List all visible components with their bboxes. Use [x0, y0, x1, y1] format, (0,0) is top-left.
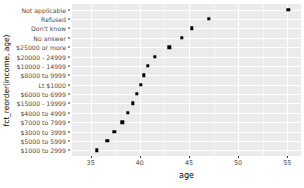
y-axis-title-text: fct_reorder(income, age): [3, 34, 12, 126]
data-point: [287, 8, 290, 11]
y-axis-title: fct_reorder(income, age): [0, 0, 14, 160]
data-point: [106, 139, 109, 142]
y-axis-tick-mark: [68, 47, 70, 48]
y-axis-tick-mark: [68, 103, 70, 104]
y-axis-tick-mark: [68, 28, 70, 29]
y-axis-tick-mark: [68, 84, 70, 85]
y-axis-tick-label: Refused: [41, 16, 66, 23]
y-axis-tick-label: $10000 - 14999: [17, 62, 66, 69]
x-axis-tick-label: 35: [87, 159, 95, 167]
gridline-major-vertical: [91, 4, 92, 156]
gridline-minor-vertical: [115, 4, 116, 156]
x-axis-title: age: [72, 171, 301, 180]
gridline-major-horizontal: [72, 103, 301, 104]
gridline-major-horizontal: [72, 85, 301, 86]
data-point: [146, 64, 149, 67]
gridline-minor-vertical: [263, 4, 264, 156]
gridline-major-horizontal: [72, 150, 301, 151]
gridline-minor-vertical: [214, 4, 215, 156]
gridline-major-horizontal: [72, 19, 301, 20]
y-axis-tick-label: $20000 - 24999: [17, 53, 66, 60]
data-point: [207, 17, 210, 20]
data-point: [135, 92, 138, 95]
y-axis-tick-mark: [68, 65, 70, 66]
gridline-major-vertical: [287, 4, 288, 156]
y-axis-tick-label: $8000 to 9999: [20, 72, 66, 79]
y-axis-tick-mark: [68, 37, 70, 38]
gridline-major-horizontal: [72, 94, 301, 95]
y-axis-tick-label: $4000 to 4999: [20, 109, 66, 116]
y-axis-tick-mark: [68, 9, 70, 10]
data-point: [180, 36, 183, 39]
x-axis-tick-label: 40: [136, 159, 144, 167]
gridline-major-horizontal: [72, 38, 301, 39]
gridline-major-horizontal: [72, 57, 301, 58]
gridline-major-horizontal: [72, 132, 301, 133]
x-axis-tick-label: 45: [185, 159, 193, 167]
gridline-major-horizontal: [72, 75, 301, 76]
gridline-major-horizontal: [72, 47, 301, 48]
gridline-major-horizontal: [72, 113, 301, 114]
data-point: [142, 74, 145, 77]
data-point: [113, 130, 116, 133]
y-axis-tick-mark: [68, 122, 70, 123]
y-axis-tick-mark: [68, 56, 70, 57]
scatter-plot: fct_reorder(income, age) Not applicableR…: [0, 0, 304, 188]
gridline-minor-vertical: [164, 4, 165, 156]
y-axis-tick-label: $3000 to 3999: [20, 128, 66, 135]
data-point: [120, 121, 123, 124]
y-axis-tick-label: Not applicable: [21, 6, 66, 13]
y-axis-tick-labels: Not applicableRefusedDon't knowNo answer…: [14, 4, 70, 156]
y-axis-tick-label: $5000 to 5999: [20, 137, 66, 144]
x-axis-tick-label: 50: [234, 159, 242, 167]
y-axis-tick-label: $1000 to 2999: [20, 147, 66, 154]
y-axis-tick-label: $15000 - 19999: [17, 100, 66, 107]
data-point: [153, 55, 156, 58]
y-axis-tick-mark: [68, 19, 70, 20]
y-axis-tick-label: Lt $1000: [38, 81, 66, 88]
gridline-major-horizontal: [72, 28, 301, 29]
y-axis-tick-mark: [68, 150, 70, 151]
gridline-major-vertical: [140, 4, 141, 156]
x-axis-tick-labels: 3540455055: [72, 159, 301, 170]
y-axis-tick-label: $7000 to 7999: [20, 119, 66, 126]
y-axis-tick-label: Don't know: [31, 25, 66, 32]
gridline-major-horizontal: [72, 122, 301, 123]
y-axis-tick-label: $25000 or more: [16, 44, 66, 51]
gridline-major-vertical: [238, 4, 239, 156]
y-axis-tick-label: No answer: [33, 34, 66, 41]
y-axis-tick-mark: [68, 112, 70, 113]
plot-panel: [72, 4, 301, 156]
data-point: [190, 27, 193, 30]
gridline-major-horizontal: [72, 66, 301, 67]
y-axis-tick-mark: [68, 94, 70, 95]
data-point: [168, 45, 171, 48]
gridline-major-horizontal: [72, 10, 301, 11]
y-axis-tick-mark: [68, 75, 70, 76]
y-axis-tick-mark: [68, 131, 70, 132]
data-point: [95, 149, 98, 152]
data-point: [139, 83, 142, 86]
y-axis-tick-mark: [68, 140, 70, 141]
data-point: [131, 102, 134, 105]
data-point: [126, 111, 129, 114]
x-axis-tick-label: 55: [283, 159, 291, 167]
y-axis-tick-label: $6000 to 6999: [20, 91, 66, 98]
